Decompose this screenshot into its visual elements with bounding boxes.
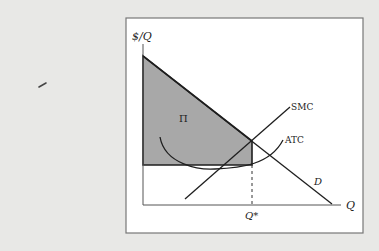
economics-diagram: $/Q Q Q* D SMC ATC Π	[0, 0, 379, 251]
demand-label: D	[313, 176, 322, 187]
profit-label: Π	[179, 113, 188, 124]
stray-mark	[39, 83, 46, 87]
atc-label: ATC	[284, 135, 304, 145]
x-axis-label: Q	[346, 199, 355, 212]
q-star-label: Q*	[245, 210, 258, 221]
y-axis-label: $/Q	[132, 30, 152, 43]
smc-label: SMC	[291, 102, 313, 112]
